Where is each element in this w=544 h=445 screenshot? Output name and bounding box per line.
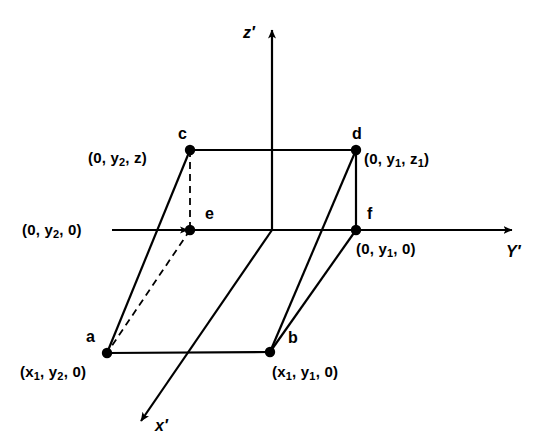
vertex-label-d: d	[352, 126, 362, 142]
vertex-dot-d	[351, 145, 361, 155]
vertex-dot-c	[185, 145, 195, 155]
vertex-dots-group	[102, 145, 361, 358]
vertex-label-e: e	[205, 206, 214, 222]
axis-label-y: Y′	[506, 244, 521, 260]
x-axis-line	[141, 230, 272, 421]
vertex-label-b: b	[288, 330, 298, 346]
edge-a-b	[107, 352, 270, 353]
edge-a-c	[107, 150, 190, 353]
axes-group	[112, 30, 512, 421]
axis-label-x: x′	[155, 418, 168, 434]
vertex-label-c: c	[178, 126, 187, 142]
figure-container: c(0, y2, z)d(0, y1, z1)e(0, y2, 0)f(0, y…	[0, 0, 544, 445]
vertex-label-f: f	[367, 206, 372, 222]
axis-label-z: z′	[243, 25, 255, 41]
coordinate-label-b: (x1, y1, 0)	[272, 364, 338, 379]
coordinate-label-d: (0, y1, z1)	[364, 151, 429, 166]
coordinate-label-f: (0, y1, 0)	[356, 241, 416, 256]
coordinate-label-c: (0, y2, z)	[88, 150, 147, 165]
vertex-dot-f	[351, 225, 361, 235]
vertex-dot-a	[102, 348, 112, 358]
wireframe-edges-group	[107, 150, 356, 353]
vertex-label-a: a	[86, 329, 95, 345]
edge-e-a	[107, 230, 190, 353]
coordinate-label-e: (0, y2, 0)	[22, 222, 82, 237]
coordinate-label-a: (x1, y2, 0)	[20, 364, 86, 379]
vertex-dot-b	[265, 347, 275, 357]
edge-b-d	[270, 150, 356, 352]
vertex-dot-e	[185, 225, 195, 235]
